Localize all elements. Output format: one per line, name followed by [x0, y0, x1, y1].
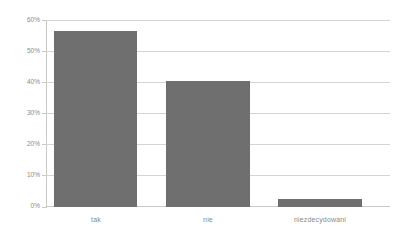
- y-axis-tick-label: 30%: [0, 110, 40, 117]
- y-axis-tick-label-60: 60%: [27, 16, 40, 23]
- y-axis-tick-label-0: 0%: [31, 202, 40, 209]
- y-axis-tick-label-10: 10%: [27, 171, 40, 178]
- y-axis-tick-label-40: 40%: [27, 78, 40, 85]
- bar-chart: 60% 50% 40% 30% 20% 10% 0% tak: [0, 0, 394, 236]
- y-axis-tick-label: 40%: [0, 79, 40, 86]
- y-axis-tick-label-50: 50%: [27, 47, 40, 54]
- y-axis-tick-label: 0%: [0, 203, 40, 210]
- gridline-60: [46, 20, 390, 21]
- y-axis-tick-label-30: 30%: [27, 109, 40, 116]
- y-axis-tick-label-20: 20%: [27, 140, 40, 147]
- bar-tak[interactable]: [54, 31, 137, 207]
- bar-niezdecydowani[interactable]: [278, 199, 362, 207]
- y-axis-tick-label: 50%: [0, 48, 40, 55]
- x-axis-label-tak: tak: [54, 216, 138, 223]
- x-axis-label-niezdecydowani: niezdecydowani: [278, 216, 362, 223]
- y-axis-tick-label: 10%: [0, 172, 40, 179]
- y-axis-tick-label: 60%: [0, 17, 40, 24]
- plot-area: [46, 20, 390, 207]
- x-axis-label-nie: nie: [166, 216, 250, 223]
- y-axis-tick-label: 20%: [0, 141, 40, 148]
- bar-nie[interactable]: [166, 81, 250, 207]
